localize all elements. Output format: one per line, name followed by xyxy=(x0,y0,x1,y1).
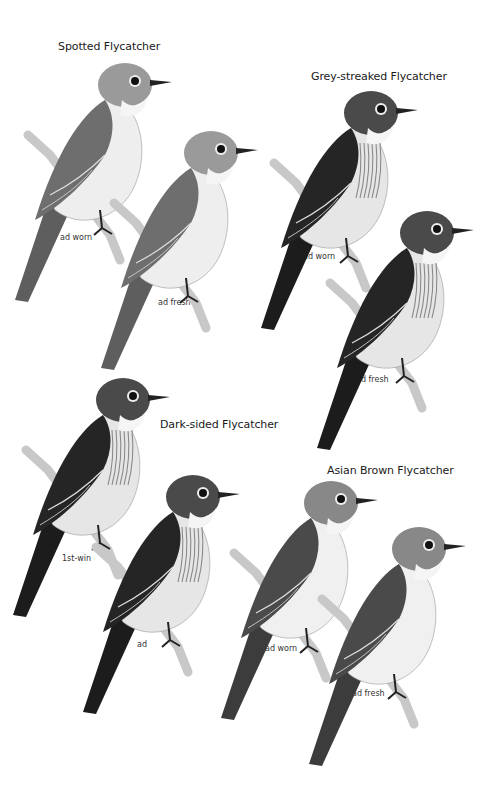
species-title-grey-streaked-flycatcher: Grey-streaked Flycatcher xyxy=(311,70,447,83)
bird-illustration xyxy=(96,128,266,378)
bird-illustration xyxy=(312,208,480,458)
bird-illustration xyxy=(304,524,474,774)
species-title-asian-brown-flycatcher: Asian Brown Flycatcher xyxy=(327,464,454,477)
species-title-spotted-flycatcher: Spotted Flycatcher xyxy=(58,40,160,53)
